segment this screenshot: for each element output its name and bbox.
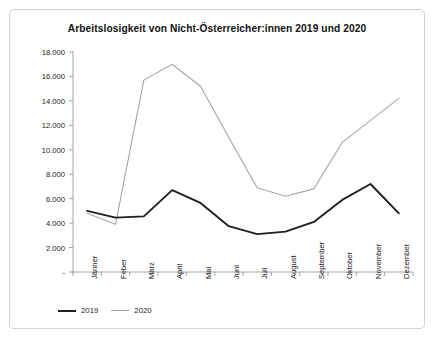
x-axis-tick-label: April xyxy=(175,264,184,279)
x-axis-tick-label: August xyxy=(289,255,298,279)
y-axis-tick-label: 12.000 xyxy=(18,121,65,130)
y-axis-tick-label: 2.000 xyxy=(18,243,65,252)
x-axis-tick-label: März xyxy=(147,262,156,279)
chart-card: Arbeitslosigkeit von Nicht-Österreicher:… xyxy=(9,9,425,329)
y-axis-tick-label: 6.000 xyxy=(18,194,65,203)
x-axis-tick-label: Feber xyxy=(119,259,128,279)
legend-swatch-icon xyxy=(111,310,129,311)
y-axis-tick-label: 14.000 xyxy=(18,96,65,105)
y-axis-tick-label: 18.000 xyxy=(18,48,65,57)
legend-label: 2019 xyxy=(81,306,98,315)
x-axis-tick-label: Oktober xyxy=(345,252,354,279)
legend-label: 2020 xyxy=(134,306,151,315)
y-axis-tick-label: 10.000 xyxy=(18,145,65,154)
x-axis-tick-label: Dezember xyxy=(402,244,411,279)
y-axis-tick-label: - xyxy=(18,268,65,277)
x-axis-tick-label: Mai xyxy=(204,267,213,279)
line-chart-svg xyxy=(10,10,426,330)
x-axis-tick-label: Jänner xyxy=(90,256,99,279)
plot-area: -2.0004.0006.0008.00010.00012.00014.0001… xyxy=(10,10,426,330)
y-axis-tick-label: 8.000 xyxy=(18,170,65,179)
legend-swatch-icon xyxy=(58,310,76,312)
x-axis-tick-label: September xyxy=(317,242,326,279)
legend-item-2019[interactable]: 2019 xyxy=(58,306,98,315)
x-axis-tick-label: November xyxy=(374,244,383,279)
x-axis-tick-label: Juni xyxy=(232,265,241,279)
y-axis-tick-label: 4.000 xyxy=(18,219,65,228)
x-axis-tick-label: Juli xyxy=(260,268,269,279)
y-axis-tick-label: 16.000 xyxy=(18,72,65,81)
chart-legend: 20192020 xyxy=(58,306,152,315)
legend-item-2020[interactable]: 2020 xyxy=(111,306,151,315)
